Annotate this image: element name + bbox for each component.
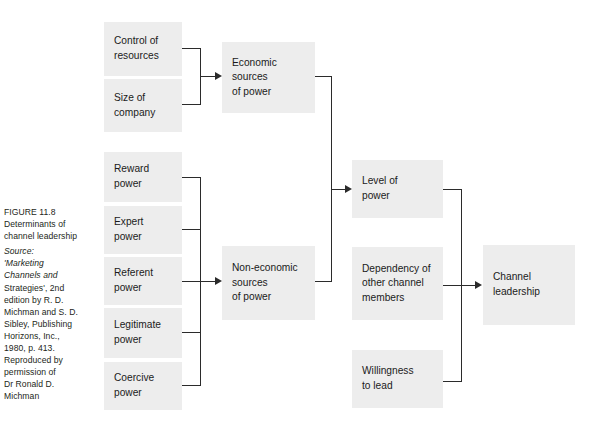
- node-label-line: power: [114, 333, 176, 348]
- node-dependency-of-other-channel-members: Dependency of other channel members: [352, 247, 443, 320]
- connector-economic-stem: [200, 76, 215, 77]
- node-label-line: power: [114, 177, 176, 192]
- connector-coercive-power: [182, 385, 201, 386]
- node-label-line: Coercive: [114, 371, 176, 386]
- connector-non-economic-stem: [200, 281, 215, 282]
- node-label-line: of power: [232, 85, 309, 100]
- node-legitimate-power: Legitimate power: [104, 308, 182, 358]
- connector-non-economic-out: [315, 281, 332, 282]
- node-level-of-power: Level of power: [352, 160, 443, 218]
- connector-economic-out: [315, 76, 332, 77]
- arrowhead-to-non-economic-sources: [215, 277, 222, 285]
- node-coercive-power: Coercive power: [104, 362, 182, 410]
- flow-diagram: Control of resources Size of company Eco…: [0, 0, 596, 430]
- node-label-line: Level of: [362, 174, 437, 189]
- node-control-of-resources: Control of resources: [104, 22, 182, 76]
- node-label-line: leadership: [493, 285, 569, 300]
- node-label-line: power: [362, 189, 437, 204]
- node-economic-sources-of-power: Economic sources of power: [222, 42, 315, 113]
- node-label-line: of power: [232, 290, 309, 305]
- node-non-economic-sources-of-power: Non-economic sources of power: [222, 246, 315, 320]
- node-label-line: sources: [232, 70, 309, 85]
- node-label-line: Expert: [114, 215, 176, 230]
- node-label-line: Control of: [114, 34, 176, 49]
- node-label-line: Reward: [114, 162, 176, 177]
- node-label-line: Referent: [114, 266, 176, 281]
- node-label-line: Legitimate: [114, 318, 176, 333]
- connector-expert-power: [182, 229, 201, 230]
- node-referent-power: Referent power: [104, 257, 182, 305]
- connector-power-merge: [331, 76, 332, 282]
- connector-level-of-power-out: [443, 189, 462, 190]
- node-label-line: Economic: [232, 56, 309, 71]
- node-label-line: power: [114, 281, 176, 296]
- connector-dependency-out: [443, 285, 462, 286]
- connector-reward-power: [182, 177, 201, 178]
- node-label-line: members: [362, 291, 437, 306]
- connector-size-of-company: [182, 104, 201, 105]
- node-expert-power: Expert power: [104, 206, 182, 254]
- node-label-line: Non-economic: [232, 261, 309, 276]
- connector-referent-power: [182, 281, 201, 282]
- node-label-line: Willingness: [362, 364, 437, 379]
- node-label-line: power: [114, 386, 176, 401]
- arrowhead-to-level-of-power: [345, 185, 352, 193]
- connector-legitimate-power: [182, 332, 201, 333]
- node-willingness-to-lead: Willingness to lead: [352, 350, 443, 408]
- node-label-line: power: [114, 230, 176, 245]
- node-label-line: Size of: [114, 91, 176, 106]
- connector-level-of-power-stem: [331, 189, 345, 190]
- connector-channel-leadership-stem: [461, 285, 475, 286]
- node-channel-leadership: Channel leadership: [483, 245, 575, 325]
- arrowhead-to-channel-leadership: [475, 281, 482, 289]
- arrowhead-to-economic-sources: [215, 72, 222, 80]
- node-label-line: other channel: [362, 276, 437, 291]
- node-label-line: Channel: [493, 270, 569, 285]
- node-size-of-company: Size of company: [104, 79, 182, 132]
- node-label-line: resources: [114, 49, 176, 64]
- node-label-line: Dependency of: [362, 262, 437, 277]
- connector-willingness-out: [443, 381, 462, 382]
- node-label-line: to lead: [362, 379, 437, 394]
- node-label-line: company: [114, 106, 176, 121]
- connector-control-of-resources: [182, 48, 201, 49]
- node-label-line: sources: [232, 276, 309, 291]
- node-reward-power: Reward power: [104, 152, 182, 202]
